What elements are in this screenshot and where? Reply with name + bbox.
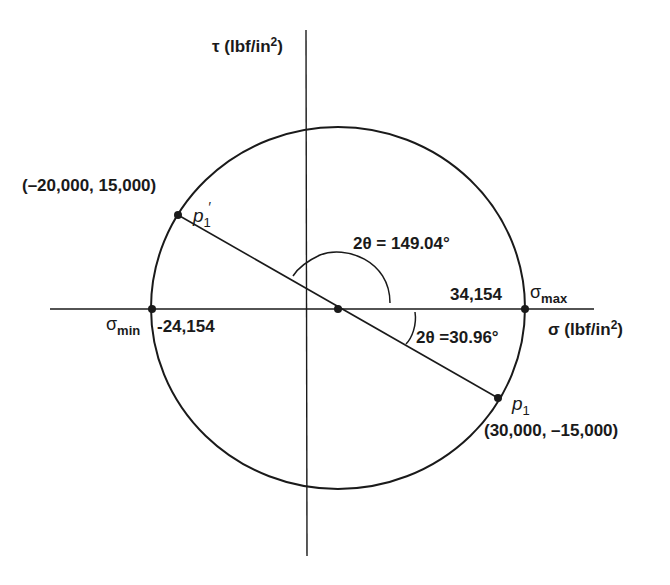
- point-p1-prime: [174, 211, 182, 219]
- point-p1: [494, 394, 502, 402]
- mohr-circle-diagram: τ (lbf/in2) σ (lbf/in2) (–20,000, 15,000…: [0, 0, 670, 585]
- large-angle-label: 2θ = 149.04°: [353, 234, 450, 253]
- tau-axis: [306, 30, 307, 556]
- sigma-min-value: -24,154: [157, 317, 215, 336]
- p1-coords: (30,000, –15,000): [484, 421, 618, 440]
- point-sigma-max: [521, 305, 529, 313]
- tau-axis-label: τ (lbf/in2): [212, 35, 283, 56]
- sigma-max-label: σmax: [530, 282, 568, 306]
- small-angle-label: 2θ =30.96°: [416, 328, 499, 347]
- sigma-max-value: 34,154: [450, 285, 503, 304]
- large-angle-arc: [293, 252, 390, 303]
- small-angle-arc: [406, 312, 415, 344]
- sigma-axis-label: σ (lbf/in2): [548, 318, 623, 339]
- sigma-min-label: σmin: [106, 314, 140, 338]
- point-center: [334, 305, 342, 313]
- p1-prime-label: p1′: [192, 199, 212, 230]
- p1-prime-coords: (–20,000, 15,000): [22, 176, 156, 195]
- point-sigma-min: [148, 305, 156, 313]
- p1-label: p1: [511, 393, 530, 418]
